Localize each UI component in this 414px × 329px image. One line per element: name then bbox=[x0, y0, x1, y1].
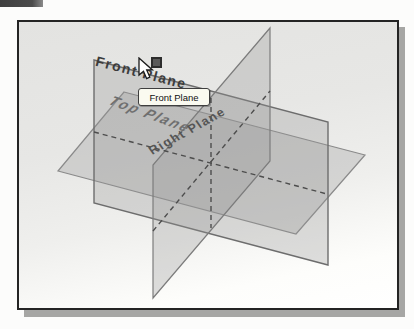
hover-tooltip: Front Plane bbox=[138, 88, 210, 106]
hover-tooltip-text: Front Plane bbox=[149, 92, 198, 103]
figure-page: Top Plane Right Plane Front Plane Front … bbox=[0, 0, 414, 329]
mouse-cursor-icon bbox=[137, 57, 155, 81]
cad-scene bbox=[0, 0, 414, 329]
